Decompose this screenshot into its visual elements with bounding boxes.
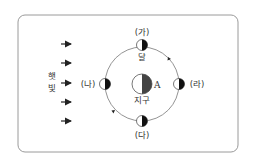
label-ra: (라) — [190, 79, 205, 89]
sunlight-label-2: 빛 — [48, 83, 56, 93]
moon-phase-diagram: 햇 빛 A 지구 (가) 달 (나) (라) (다) — [0, 0, 253, 159]
moon-label: 달 — [138, 52, 146, 62]
moon-da — [137, 116, 148, 127]
label-na: (나) — [81, 79, 96, 89]
moon-ra — [174, 79, 185, 90]
moon-ga — [137, 40, 148, 51]
label-ga: (가) — [135, 27, 150, 37]
earth-point-a: A — [153, 80, 161, 90]
label-da: (다) — [135, 130, 150, 140]
earth-label: 지구 — [134, 95, 150, 105]
moon-na — [100, 79, 111, 90]
sunlight-label-1: 햇 — [48, 71, 56, 81]
earth — [132, 74, 152, 94]
